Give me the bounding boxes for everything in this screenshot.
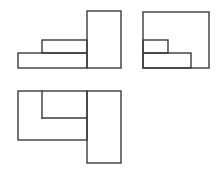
front-view-outline-rect bbox=[87, 11, 121, 68]
side-view-outline-rect bbox=[143, 53, 191, 68]
top-view bbox=[18, 91, 121, 163]
three-view-drawing bbox=[0, 0, 223, 173]
front-view-outline-rect bbox=[18, 53, 87, 68]
side-view-outline-rect bbox=[143, 40, 168, 53]
top-view-outline-rect bbox=[18, 91, 87, 140]
top-view-outline-rect bbox=[87, 91, 121, 163]
drawing-canvas bbox=[0, 0, 223, 173]
side-view bbox=[143, 12, 209, 68]
front-view-outline-rect bbox=[42, 40, 87, 53]
front-view bbox=[18, 11, 121, 68]
